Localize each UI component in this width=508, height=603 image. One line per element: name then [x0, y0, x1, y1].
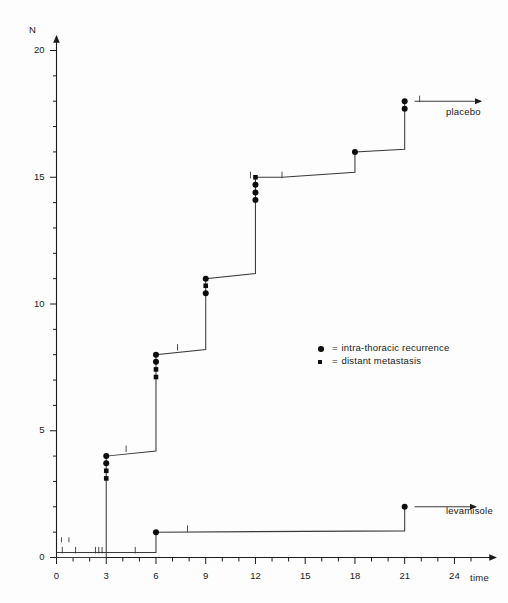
y-tick-label: 5	[17, 424, 45, 435]
x-tick-label: 9	[191, 570, 221, 581]
event-marker-circle	[252, 197, 258, 203]
event-marker-square	[104, 469, 109, 474]
event-marker-circle	[252, 182, 258, 188]
y-tick-label: 10	[17, 298, 45, 309]
event-marker-circle	[153, 359, 159, 365]
series-label-placebo: placebo	[446, 106, 481, 117]
legend: = intra-thoracic recurrence = distant me…	[318, 341, 450, 367]
event-marker-circle	[103, 453, 109, 459]
event-marker-circle	[402, 98, 408, 104]
survival-chart: N time placebo levamisole = intra-thorac…	[0, 0, 508, 603]
x-tick-label: 0	[42, 570, 72, 581]
event-marker-circle	[103, 460, 109, 466]
legend-equals-sign: =	[332, 355, 338, 366]
x-tick-label: 6	[141, 570, 171, 581]
event-marker-circle	[352, 149, 358, 155]
y-tick-label: 20	[17, 44, 45, 55]
y-axis-title: N	[29, 24, 36, 35]
event-marker-circle	[203, 290, 209, 296]
y-tick-label: 0	[17, 551, 45, 562]
circle-marker-icon	[318, 341, 332, 354]
x-tick-label: 18	[340, 570, 370, 581]
event-marker-circle	[203, 276, 209, 282]
step-curve-levamisole	[57, 507, 405, 553]
square-marker-icon	[318, 354, 332, 367]
event-marker-circle	[153, 352, 159, 358]
event-marker-circle	[252, 189, 258, 195]
event-marker-square	[154, 375, 159, 380]
event-marker-square	[154, 367, 159, 372]
series-label-levamisole: levamisole	[446, 505, 493, 516]
step-curve-placebo	[57, 101, 405, 557]
x-tick-label: 15	[290, 570, 320, 581]
x-tick-label: 12	[240, 570, 270, 581]
plot-area	[0, 0, 508, 603]
x-axis-title: time	[470, 572, 489, 583]
event-marker-circle	[402, 504, 408, 510]
event-marker-square	[104, 476, 109, 481]
event-marker-square	[253, 175, 258, 180]
event-marker-circle	[153, 529, 159, 535]
legend-label-metastasis: distant metastasis	[342, 355, 422, 366]
y-tick-label: 15	[17, 171, 45, 182]
x-tick-label: 24	[439, 570, 469, 581]
legend-label-recurrence: intra-thoracic recurrence	[342, 342, 450, 353]
event-marker-square	[203, 283, 208, 288]
x-tick-label: 3	[91, 570, 121, 581]
legend-item-metastasis: = distant metastasis	[318, 354, 450, 367]
legend-equals-sign: =	[332, 342, 338, 353]
x-tick-label: 21	[390, 570, 420, 581]
event-marker-circle	[402, 106, 408, 112]
legend-item-recurrence: = intra-thoracic recurrence	[318, 341, 450, 354]
